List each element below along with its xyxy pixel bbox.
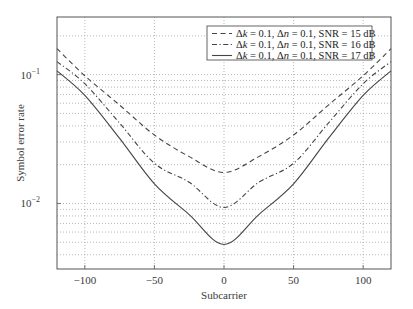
x-tick-label: 0 [221, 274, 227, 286]
x-axis-label: Subcarrier [201, 289, 247, 301]
y-axis-ticks: 10−210−1 [20, 67, 61, 210]
x-tick-label: −100 [73, 274, 96, 286]
x-tick-label: −50 [146, 274, 164, 286]
chart: −100−50050100 10−210−1 Subcarrier Symbol… [0, 0, 413, 309]
legend-entry: Δk = 0.1, Δn = 0.1, SNR = 16 dB [236, 39, 376, 50]
legend: Δk = 0.1, Δn = 0.1, SNR = 15 dBΔk = 0.1,… [207, 26, 376, 61]
x-axis-ticks: −100−50050100 [73, 265, 371, 286]
y-axis-label: Symbol error rate [14, 104, 26, 182]
x-tick-label: 50 [288, 274, 300, 286]
y-tick-label: 10−2 [20, 195, 40, 209]
legend-entry: Δk = 0.1, Δn = 0.1, SNR = 17 dB [236, 50, 376, 61]
legend-entry: Δk = 0.1, Δn = 0.1, SNR = 15 dB [236, 28, 376, 39]
x-tick-label: 100 [355, 274, 372, 286]
y-tick-label: 10−1 [20, 67, 40, 81]
